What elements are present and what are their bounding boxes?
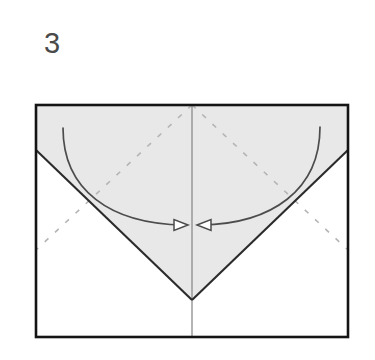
origami-step-figure: 3 Origami step 3: square sheet with top … xyxy=(0,0,375,360)
origami-diagram xyxy=(0,0,375,360)
